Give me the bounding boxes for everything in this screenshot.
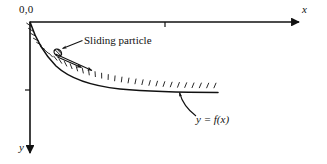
particle-leader-arrow <box>63 41 83 49</box>
function-label: y = f(x) <box>196 114 229 125</box>
figure-canvas: 0,0 x y Sliding particle y = f(x) <box>0 0 327 164</box>
x-axis-label: x <box>302 4 307 15</box>
surface-hatching <box>26 23 216 88</box>
y-axis <box>25 22 30 153</box>
y-axis-label: y <box>19 142 24 153</box>
function-leader-arrow <box>180 93 197 117</box>
origin-label: 0,0 <box>19 4 34 15</box>
diagram-svg <box>0 0 327 164</box>
x-axis <box>30 22 299 27</box>
sliding-particle-label: Sliding particle <box>84 35 152 46</box>
